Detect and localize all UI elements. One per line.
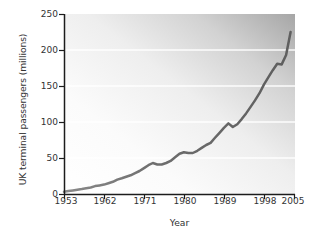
chart-figure: 250 200 150 100 50 0 1953 1962 1971 1980… (0, 0, 316, 239)
y-tick-marks (59, 15, 64, 195)
y-tick-label: 150 (34, 82, 58, 91)
x-tick-label: 1962 (85, 197, 125, 206)
y-tick-labels: 250 200 150 100 50 0 (34, 0, 58, 194)
y-tick-label: 50 (34, 154, 58, 163)
y-tick-label: 200 (34, 46, 58, 55)
x-tick-label: 1989 (205, 197, 245, 206)
x-tick-label: 1971 (125, 197, 165, 206)
y-tick-label: 100 (34, 118, 58, 127)
y-tick-label: 250 (34, 10, 58, 19)
plot-background (64, 14, 295, 194)
x-axis-title: Year (64, 217, 295, 228)
x-tick-label: 2005 (273, 197, 313, 206)
x-tick-label: 1980 (165, 197, 205, 206)
x-tick-label: 1953 (46, 197, 86, 206)
y-axis-title: UK terminal passengers (millions) (17, 25, 28, 195)
